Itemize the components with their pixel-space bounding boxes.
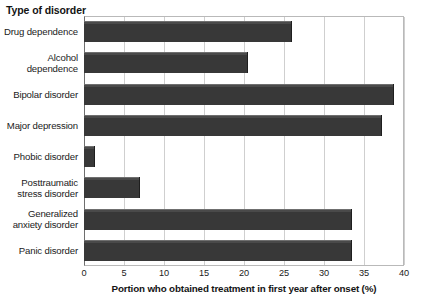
bar-chart: Type of disorder Drug dependenceAlcohold…: [0, 0, 432, 300]
category-label: Bipolar disorder: [0, 89, 78, 100]
category-label: Alcoholdependence: [0, 52, 78, 74]
bar-row: [84, 84, 404, 105]
x-tick-label: 0: [81, 268, 86, 278]
y-axis-title: Type of disorder: [6, 4, 86, 16]
category-label: Panic disorder: [0, 245, 78, 256]
x-tick-label: 40: [399, 268, 409, 278]
x-axis-title: Portion who obtained treatment in first …: [84, 283, 404, 294]
x-tick-label: 25: [279, 268, 289, 278]
category-label: Generalizedanxiety disorder: [0, 208, 78, 230]
bar: [84, 209, 352, 230]
bar: [84, 21, 292, 42]
bar-row: [84, 115, 404, 136]
x-tick-label: 35: [359, 268, 369, 278]
bar: [84, 177, 140, 198]
bars-layer: [84, 16, 404, 266]
x-tick-label: 30: [319, 268, 329, 278]
bar: [84, 52, 248, 73]
bar-row: [84, 240, 404, 261]
bar-row: [84, 52, 404, 73]
x-tick-label: 15: [199, 268, 209, 278]
category-label: Phobic disorder: [0, 151, 78, 162]
bar-row: [84, 177, 404, 198]
bar: [84, 115, 382, 136]
x-tick-label: 10: [159, 268, 169, 278]
gridline: [404, 17, 405, 265]
x-tick-labels: 0510152025303540: [84, 268, 404, 282]
bar: [84, 146, 95, 167]
x-tick-label: 5: [121, 268, 126, 278]
category-label: Posttraumaticstress disorder: [0, 177, 78, 199]
bar-row: [84, 146, 404, 167]
x-tick-label: 20: [239, 268, 249, 278]
category-labels: Drug dependenceAlcoholdependenceBipolar …: [0, 16, 78, 266]
category-label: Drug dependence: [0, 26, 78, 37]
bar: [84, 84, 394, 105]
bar: [84, 240, 352, 261]
category-label: Major depression: [0, 120, 78, 131]
bar-row: [84, 209, 404, 230]
bar-row: [84, 21, 404, 42]
